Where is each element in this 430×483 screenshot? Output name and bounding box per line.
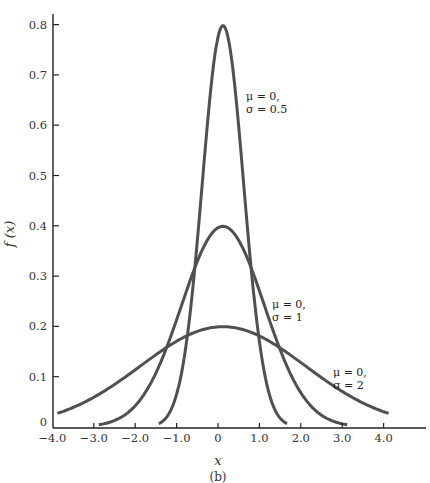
svg-text:μ = 0,: μ = 0,: [246, 90, 280, 103]
annotation-sigma-2: μ = 0, σ = 2: [333, 366, 367, 392]
y-tick-label: 0: [40, 415, 47, 429]
curve-sigma-0-5: [159, 26, 287, 424]
y-tick-label: 0.1: [29, 370, 47, 384]
figure-caption: (b): [209, 470, 226, 483]
x-tick-label: −3.0: [80, 431, 108, 445]
x-tick-label: −2.0: [121, 431, 149, 445]
y-tick-label: 0.8: [29, 18, 47, 32]
x-tick-label: −4.0: [38, 431, 66, 445]
y-axis-ticks: 00.10.20.30.40.50.60.70.8: [29, 18, 59, 429]
x-tick-label: 4.0: [374, 431, 392, 445]
x-tick-label: 2.0: [292, 431, 310, 445]
svg-text:μ = 0,: μ = 0,: [272, 298, 306, 311]
y-tick-label: 0.3: [29, 269, 47, 283]
x-tick-label: −1.0: [163, 431, 191, 445]
x-tick-label: 0: [214, 431, 221, 445]
y-axis-title: f (x): [2, 221, 17, 248]
y-tick-label: 0.7: [29, 68, 47, 82]
svg-text:σ = 1: σ = 1: [272, 311, 303, 324]
y-tick-label: 0.2: [29, 319, 47, 333]
plot-curves: [57, 26, 388, 425]
x-tick-label: 3.0: [333, 431, 351, 445]
x-tick-label: 1.0: [250, 431, 268, 445]
y-tick-label: 0.5: [29, 169, 47, 183]
normal-distribution-chart: −4.0−3.0−2.0−1.001.02.03.04.0 00.10.20.3…: [0, 0, 430, 483]
y-tick-label: 0.6: [29, 118, 47, 132]
svg-text:σ = 2: σ = 2: [333, 379, 364, 392]
y-tick-label: 0.4: [29, 219, 47, 233]
annotation-sigma-1: μ = 0, σ = 1: [272, 298, 306, 324]
svg-text:σ = 0.5: σ = 0.5: [246, 103, 287, 116]
x-axis-title: x: [214, 453, 222, 468]
x-axis-ticks: −4.0−3.0−2.0−1.001.02.03.04.0: [38, 423, 392, 445]
annotation-sigma-0-5: μ = 0, σ = 0.5: [246, 90, 287, 116]
svg-text:μ = 0,: μ = 0,: [333, 366, 367, 379]
